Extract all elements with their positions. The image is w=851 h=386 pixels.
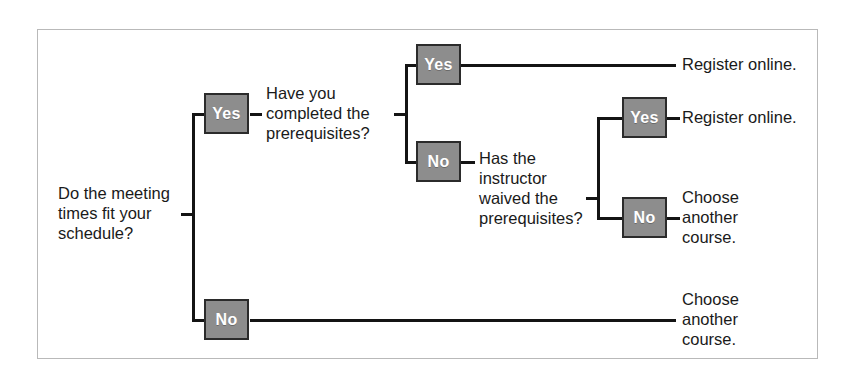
outcome-register-online-top: Register online. — [682, 54, 822, 74]
connector-yes-to-prereq-question — [250, 113, 262, 116]
decision-tree-diagram: Yes No Yes No Yes No Do the meeting time… — [0, 0, 851, 386]
root-question-label: Do the meeting times fit your schedule? — [58, 183, 188, 243]
outcome-choose-another-mid: Choose another course. — [682, 187, 792, 247]
outcome-choose-another-bottom: Choose another course. — [682, 289, 792, 349]
connector-prereq-branch — [405, 64, 408, 164]
connector-waiver-no-to-outcome — [667, 217, 680, 220]
diagram-frame: Yes No Yes No Yes No Do the meeting time… — [37, 29, 818, 359]
connector-waiver-branch — [597, 117, 600, 217]
connector-prereq-no-to-waiver-question — [461, 161, 475, 164]
node-root-no[interactable]: No — [204, 299, 249, 340]
connector-waiver-to-yes — [597, 117, 623, 120]
node-waiver-no[interactable]: No — [622, 197, 667, 238]
connector-root-no-to-outcome — [250, 319, 676, 322]
node-prereq-no[interactable]: No — [416, 141, 461, 182]
prerequisites-question-label: Have you completed the prerequisites? — [266, 83, 396, 143]
node-waiver-yes[interactable]: Yes — [622, 97, 667, 138]
connector-root-trunk — [192, 113, 195, 322]
node-root-yes[interactable]: Yes — [204, 93, 249, 134]
connector-waiver-yes-to-outcome — [667, 117, 680, 120]
waiver-question-label: Has the instructor waived the prerequisi… — [479, 148, 589, 228]
outcome-register-online-mid: Register online. — [682, 107, 822, 127]
connector-waiver-to-no — [597, 217, 623, 220]
node-prereq-yes[interactable]: Yes — [416, 44, 461, 85]
connector-prereq-yes-to-outcome — [461, 64, 676, 67]
